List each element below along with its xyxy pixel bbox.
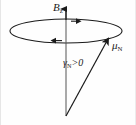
magnetic-field-symbol: B: [53, 1, 60, 13]
magnetic-moment-vector: [66, 39, 108, 116]
precession-diagram: Bz μN γN>0: [0, 0, 136, 125]
magnetic-moment-subscript: N: [118, 45, 123, 52]
magnetic-moment-symbol: μ: [112, 39, 118, 51]
magnetic-field-label: Bz: [53, 2, 63, 13]
gyromagnetic-ratio-label: γN>0: [63, 58, 83, 68]
gyromagnetic-relation: >0: [71, 57, 83, 68]
magnetic-field-subscript: z: [60, 7, 63, 14]
gyromagnetic-subscript: N: [67, 62, 71, 69]
magnetic-moment-label: μN: [112, 40, 122, 51]
